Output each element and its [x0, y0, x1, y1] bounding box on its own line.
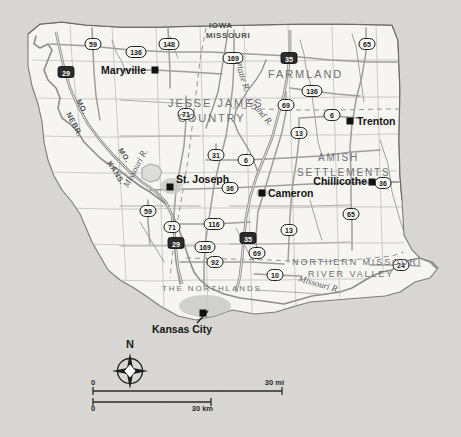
route-shield-65-6: 65: [359, 39, 375, 50]
shield-number: 65: [363, 41, 371, 48]
shield-number: 31: [212, 152, 220, 159]
route-shield-36-15: 36: [375, 178, 391, 189]
route-shield-10-26: 10: [267, 270, 283, 281]
region-label-northern-missouri: NORTHERN MISSOURI: [292, 257, 422, 267]
state-label-iowa: IOWA: [209, 21, 233, 30]
region-label-amish: AMISH: [318, 152, 359, 163]
route-shield-136-1: 136: [126, 47, 146, 58]
route-shield-136-7: 136: [302, 86, 322, 97]
city-marker: [152, 67, 159, 74]
route-shield-6-10: 6: [324, 110, 340, 121]
shield-number: 29: [172, 240, 180, 249]
shield-number: 13: [285, 227, 293, 234]
map-figure: 5913614829169356513671696316133636597111…: [0, 0, 461, 437]
shield-number: 6: [244, 157, 248, 164]
missouri-region-map: 5913614829169356513671696316133636597111…: [0, 0, 461, 437]
shield-number: 116: [208, 221, 219, 228]
route-shield-6-12: 6: [238, 155, 254, 166]
route-shield-59-0: 59: [85, 39, 101, 50]
route-shield-69-25: 69: [249, 248, 265, 259]
shield-number: 59: [144, 208, 152, 215]
scale-km-label: 30 km: [192, 404, 214, 413]
shield-number: 6: [330, 112, 334, 119]
shield-number: 148: [163, 41, 175, 48]
route-shield-31-11: 31: [208, 150, 224, 161]
route-shield-92-24: 92: [207, 257, 223, 268]
shield-number: 35: [244, 235, 252, 244]
route-shield-65-23: 65: [343, 209, 359, 220]
shield-number: 71: [168, 224, 176, 231]
region-label-settlements: SETTLEMENTS: [297, 167, 391, 178]
route-shield-169-20: 169: [195, 242, 215, 253]
shield-number: 169: [199, 244, 211, 251]
shield-number: 65: [347, 211, 355, 218]
route-shield-13-13: 13: [291, 128, 307, 139]
shield-number: 35: [285, 55, 293, 64]
route-shield-13-22: 13: [281, 225, 297, 236]
shield-number: 92: [211, 259, 219, 266]
route-shield-69-9: 69: [278, 100, 294, 111]
route-shield-29-3: 29: [58, 67, 74, 78]
city-marker: [259, 190, 266, 197]
shield-number: 29: [62, 69, 70, 78]
route-shield-35-21: 35: [240, 233, 256, 244]
shield-number: 13: [295, 130, 303, 137]
region-label-the-northlands: THE NORTHLANDS: [162, 284, 262, 293]
city-marker: [347, 118, 354, 125]
compass-north-label: N: [126, 338, 134, 350]
city-label: Cameron: [268, 187, 314, 199]
route-shield-71-17: 71: [164, 222, 180, 233]
scale-km-zero: 0: [91, 404, 95, 413]
shield-number: 69: [253, 250, 261, 257]
shield-number: 136: [306, 88, 318, 95]
shield-number: 69: [282, 102, 290, 109]
state-label-missouri: MISSOURI: [206, 31, 250, 40]
region-label-river-valley: RIVER VALLEY: [308, 269, 394, 279]
route-shield-116-18: 116: [204, 219, 224, 230]
shield-number: 136: [130, 49, 142, 56]
city-label: St. Joseph: [176, 173, 229, 185]
city-label: Trenton: [357, 115, 396, 127]
scale-miles-label: 30 mi: [265, 378, 284, 387]
city-label: Kansas City: [152, 323, 212, 335]
city-marker: [167, 184, 174, 191]
shield-number: 10: [271, 272, 279, 279]
route-shield-35-5: 35: [281, 53, 297, 64]
route-shield-29-19: 29: [168, 238, 184, 249]
shield-number: 59: [89, 41, 97, 48]
shield-number: 36: [226, 185, 234, 192]
route-shield-59-16: 59: [140, 206, 156, 217]
region-label-farmland: FARMLAND: [268, 68, 343, 80]
scale-miles-zero: 0: [91, 378, 95, 387]
route-shield-148-2: 148: [159, 39, 179, 50]
shield-number: 36: [379, 180, 387, 187]
city-label: Maryville: [101, 64, 146, 76]
city-marker: [369, 179, 376, 186]
region-label-country: COUNTRY: [178, 112, 246, 124]
